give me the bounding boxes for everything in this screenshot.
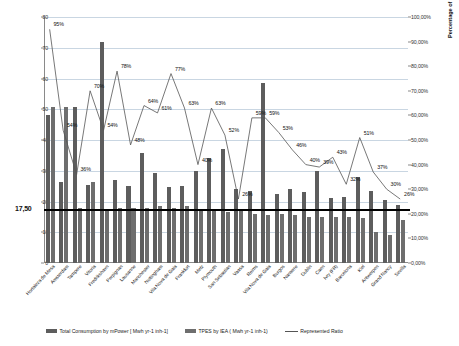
ratio-value-label: 63%	[188, 100, 198, 106]
y2-tick-mark	[408, 66, 411, 67]
ratio-value-label: 54%	[108, 122, 118, 128]
y2-tick-mark	[408, 238, 411, 239]
legend-label-tpes: TPES by IEA ( Mwh yr-1 inh-1)	[198, 328, 267, 334]
ratio-value-label: 78%	[121, 63, 131, 69]
legend-item-ratio: Represented Ratio	[285, 328, 343, 334]
ratio-value-label: 40%	[202, 157, 212, 163]
threshold-label: 17,50	[15, 205, 32, 212]
legend-swatch-mpower	[46, 329, 57, 333]
y2-tick-label: 30,00%	[411, 186, 445, 192]
ratio-value-label: 51%	[364, 130, 374, 136]
y2-tick-mark	[408, 17, 411, 18]
legend-swatch-ratio	[285, 331, 298, 332]
chart-legend: Total Consumption by mPower [ Mwh yr-1 i…	[46, 325, 416, 337]
x-axis-label: Vaasa	[232, 264, 245, 277]
threshold-line	[44, 209, 410, 211]
y2-tick-mark	[408, 263, 411, 264]
ratio-value-label: 64%	[148, 98, 158, 104]
ratio-value-label: 95%	[54, 21, 64, 27]
ratio-value-label: 36%	[81, 166, 91, 172]
ratio-value-label: 77%	[175, 66, 185, 72]
ratio-value-label: 30%	[391, 181, 401, 187]
ratio-value-label: 26%	[404, 191, 414, 197]
ratio-value-label: 26%	[242, 191, 252, 197]
legend-label-mpower: Total Consumption by mPower [ Mwh yr-1 i…	[60, 328, 168, 334]
x-axis-label: Sevilla	[394, 264, 407, 277]
x-axis-label: Dublin	[299, 264, 312, 277]
legend-label-ratio: Represented Ratio	[300, 328, 342, 334]
ratio-value-label: 53%	[283, 125, 293, 131]
ratio-value-label: 43%	[337, 149, 347, 155]
y2-tick-label: 80,00%	[411, 63, 445, 69]
ratio-value-label: 48%	[134, 137, 144, 143]
legend-swatch-tpes	[185, 329, 196, 333]
ratio-value-label: 37%	[377, 164, 387, 170]
x-axis-label: Metz	[194, 264, 205, 275]
y2-tick-mark	[408, 140, 411, 141]
ratio-value-label: 39%	[323, 159, 333, 165]
ratio-value-label: 61%	[161, 105, 171, 111]
x-axis-labels: Hortaleza de MesaAmsterdamTampereVitoria…	[44, 264, 408, 322]
y-axis-right-title: Percentage of energy represented in mPOW…	[447, 0, 453, 38]
ratio-value-label: 70%	[94, 83, 104, 89]
y2-tick-label: 60,00%	[411, 112, 445, 118]
y2-tick-mark	[408, 189, 411, 190]
ratio-value-label: 54%	[67, 122, 77, 128]
y2-tick-label: 90,00%	[411, 39, 445, 45]
x-axis-label: Kiel	[357, 264, 366, 273]
y2-tick-mark	[408, 213, 411, 214]
y2-tick-label: 100,00%	[411, 14, 445, 20]
y2-tick-label: 70,00%	[411, 88, 445, 94]
ratio-value-label: 46%	[296, 142, 306, 148]
legend-item-mpower: Total Consumption by mPower [ Mwh yr-1 i…	[46, 328, 168, 334]
y2-tick-mark	[408, 41, 411, 42]
ratio-label-layer: 95%54%36%70%54%78%48%64%61%77%63%40%63%5…	[44, 17, 408, 263]
ratio-value-label: 63%	[215, 100, 225, 106]
ratio-value-label: 32%	[350, 176, 360, 182]
ratio-value-label: 40%	[310, 157, 320, 163]
y2-tick-label: 0,00%	[411, 260, 445, 266]
y2-tick-label: 10,00%	[411, 235, 445, 241]
y2-tick-label: 40,00%	[411, 162, 445, 168]
ratio-value-label: 52%	[229, 127, 239, 133]
y2-tick-label: 20,00%	[411, 211, 445, 217]
y2-tick-mark	[408, 164, 411, 165]
y2-tick-mark	[408, 115, 411, 116]
legend-item-tpes: TPES by IEA ( Mwh yr-1 inh-1)	[185, 328, 268, 334]
ratio-value-label: 59%	[269, 110, 279, 116]
ratio-value-label: 59%	[256, 110, 266, 116]
y2-tick-mark	[408, 90, 411, 91]
y2-tick-label: 50,00%	[411, 137, 445, 143]
chart-container: 01020304050607080 0,00%10,00%20,00%30,00…	[0, 0, 459, 346]
